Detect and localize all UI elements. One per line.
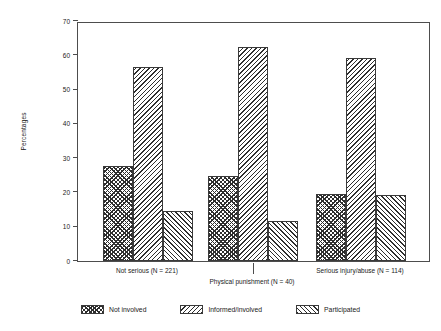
y-axis-tick-label: 60 — [63, 51, 70, 60]
y-axis-tick-label: 50 — [63, 85, 70, 94]
legend-swatch — [180, 305, 203, 314]
y-axis-tick-label: 10 — [63, 222, 70, 231]
legend-item: Participated — [296, 305, 360, 314]
y-axis-title: Percentages — [20, 87, 27, 177]
x-axis-category-label: Not serious (N = 221) — [47, 266, 247, 275]
y-axis-tick-label: 30 — [63, 154, 70, 163]
bar — [163, 211, 193, 261]
legend-item: Informed/involved — [180, 305, 262, 314]
y-axis-tick-label: 20 — [63, 188, 70, 197]
y-axis-tick: 70 — [73, 20, 78, 21]
legend-label: Participated — [324, 305, 360, 314]
y-axis-tick: 50 — [73, 89, 78, 90]
y-axis-tick: 60 — [73, 54, 78, 55]
x-axis-category-label: Serious injury/abuse (N = 114) — [260, 266, 441, 275]
bar — [208, 176, 238, 261]
bar — [316, 194, 346, 261]
legend-label: Not involved — [109, 305, 146, 314]
y-axis-tick: 0 — [73, 260, 78, 261]
y-axis-tick: 10 — [73, 226, 78, 227]
y-axis-tick-label: 40 — [63, 119, 70, 128]
legend-item: Not involved — [81, 305, 146, 314]
y-axis-tick: 30 — [73, 157, 78, 158]
legend-swatch — [296, 305, 319, 314]
y-axis-tick: 40 — [73, 123, 78, 124]
y-axis-tick-label: 70 — [63, 17, 70, 26]
plot-area: 010203040506070 — [77, 22, 430, 262]
bar — [103, 166, 133, 261]
bar-chart-figure: Percentages 010203040506070 Not serious … — [0, 0, 441, 331]
bar — [268, 221, 298, 261]
y-axis-tick: 20 — [73, 191, 78, 192]
x-axis-tick — [253, 263, 254, 274]
legend-label: Informed/involved — [208, 305, 262, 314]
bar — [238, 47, 268, 261]
y-axis-tick-label: 0 — [66, 257, 70, 266]
bar — [376, 195, 406, 262]
bar — [133, 67, 163, 261]
legend-swatch — [81, 305, 104, 314]
x-axis-category-label: Physical punishment (N = 40) — [152, 277, 352, 286]
bar — [346, 58, 376, 261]
chart-legend: Not involvedInformed/involvedParticipate… — [0, 300, 441, 318]
